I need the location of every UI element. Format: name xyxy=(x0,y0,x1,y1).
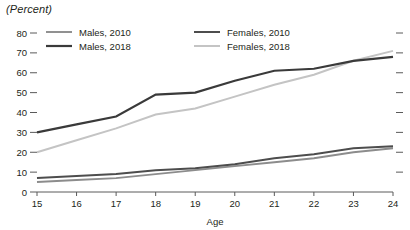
data-series-group xyxy=(37,51,393,182)
x-tick-label-20: 20 xyxy=(229,198,240,209)
y-tick-label-50: 50 xyxy=(16,87,27,98)
y-tick-label-80: 80 xyxy=(16,28,27,39)
y-tick-label-10: 10 xyxy=(16,167,27,178)
chart-container: (Percent) 01020304050607080 151617181920… xyxy=(0,0,410,230)
x-tick-label-24: 24 xyxy=(388,198,399,209)
legend-label-males-2018: Males, 2018 xyxy=(79,41,131,52)
x-tick-label-15: 15 xyxy=(32,198,43,209)
legend-label-females-2010: Females, 2010 xyxy=(227,27,290,38)
y-axis-tick-group: 01020304050607080 xyxy=(16,28,37,198)
x-axis-group: 15161718192021222324 xyxy=(32,192,399,209)
y-tick-label-0: 0 xyxy=(22,187,27,198)
x-tick-label-17: 17 xyxy=(111,198,122,209)
x-axis-title: Age xyxy=(207,216,224,227)
x-tick-label-16: 16 xyxy=(71,198,82,209)
series-line-females-2010 xyxy=(37,146,393,178)
series-line-females-2018 xyxy=(37,51,393,152)
x-tick-label-19: 19 xyxy=(190,198,201,209)
line-chart-svg: 01020304050607080 15161718192021222324 M… xyxy=(0,0,410,230)
series-line-males-2018 xyxy=(37,57,393,133)
y-tick-label-40: 40 xyxy=(16,107,27,118)
chart-legend: Males, 2010Males, 2018Females, 2010Femal… xyxy=(46,27,290,52)
y-tick-label-30: 30 xyxy=(16,127,27,138)
x-tick-label-22: 22 xyxy=(309,198,320,209)
x-tick-label-21: 21 xyxy=(269,198,280,209)
y-tick-label-20: 20 xyxy=(16,147,27,158)
y-axis-right-tick-group xyxy=(396,33,403,172)
legend-label-females-2018: Females, 2018 xyxy=(227,41,290,52)
legend-label-males-2010: Males, 2010 xyxy=(79,27,131,38)
y-tick-label-60: 60 xyxy=(16,67,27,78)
x-tick-label-18: 18 xyxy=(150,198,161,209)
y-tick-label-70: 70 xyxy=(16,47,27,58)
x-tick-label-23: 23 xyxy=(348,198,359,209)
